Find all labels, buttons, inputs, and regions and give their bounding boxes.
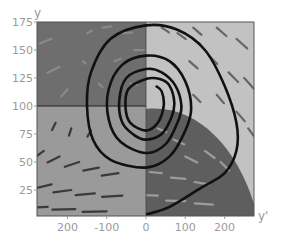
- x-tick-label: 200: [214, 221, 235, 234]
- field-arrow: [195, 203, 213, 204]
- y-axis-ticks: 255075100125150175: [12, 16, 37, 197]
- region-upper-left: [37, 22, 146, 106]
- field-arrow: [83, 211, 107, 212]
- y-tick-label: 100: [12, 100, 33, 113]
- field-arrow: [171, 178, 185, 179]
- x-tick-label: -100: [94, 221, 119, 234]
- x-tick-label: 200: [57, 221, 78, 234]
- y-tick-label: 75: [19, 128, 33, 141]
- x-axis-ticks: 200-1000100200: [57, 216, 235, 234]
- y-tick-label: 50: [19, 156, 33, 169]
- field-arrow: [102, 196, 122, 197]
- y-tick-label: 175: [12, 16, 33, 29]
- field-arrow: [122, 33, 132, 34]
- y-tick-label: 150: [12, 44, 33, 57]
- x-axis-label: y': [258, 209, 268, 223]
- field-arrow: [140, 195, 158, 196]
- y-axis-label: y: [34, 6, 41, 20]
- phase-portrait-chart: 200-1000100200 255075100125150175 y' y: [0, 0, 288, 244]
- field-arrow: [150, 172, 162, 173]
- field-arrow: [52, 209, 75, 210]
- y-tick-label: 125: [12, 72, 33, 85]
- x-tick-label: 0: [143, 221, 150, 234]
- field-arrow: [103, 26, 111, 27]
- x-tick-label: 100: [175, 221, 196, 234]
- y-tick-label: 25: [19, 184, 33, 197]
- shaded-regions: [37, 22, 254, 216]
